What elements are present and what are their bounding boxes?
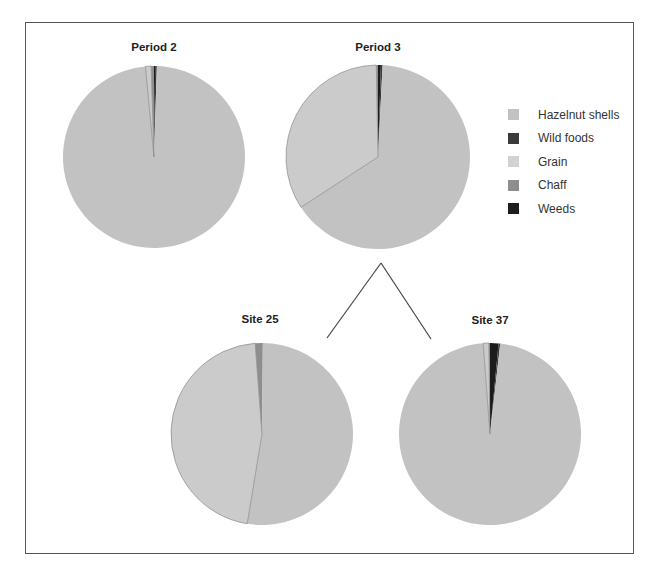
swatch-icon	[508, 133, 519, 144]
pie-site-25	[171, 343, 353, 525]
pie-title-period-3: Period 3	[355, 41, 400, 53]
legend-label: Hazelnut shells	[538, 108, 619, 122]
pie-period-2	[63, 66, 245, 248]
connector-line	[381, 263, 431, 339]
legend-item-wild-foods: Wild foods	[508, 127, 619, 151]
legend-item-grain: Grain	[508, 150, 619, 174]
legend-item-weeds: Weeds	[508, 197, 619, 221]
legend-label: Wild foods	[538, 131, 594, 145]
connector-line	[327, 263, 381, 338]
pie-title-site-37: Site 37	[471, 314, 508, 326]
swatch-icon	[508, 109, 519, 120]
pie-title-site-25: Site 25	[241, 313, 278, 325]
swatch-icon	[508, 156, 519, 167]
pie-period-3	[286, 65, 470, 249]
slice-grain	[171, 343, 262, 524]
slice-hazelnut-shells	[247, 343, 353, 525]
pie-site-37	[399, 343, 581, 525]
legend-label: Chaff	[538, 178, 566, 192]
swatch-icon	[508, 203, 519, 214]
legend-item-chaff: Chaff	[508, 174, 619, 198]
legend-item-hazelnut: Hazelnut shells	[508, 103, 619, 127]
pie-title-period-2: Period 2	[131, 41, 176, 53]
legend-label: Weeds	[538, 202, 575, 216]
pie-charts	[0, 0, 657, 571]
swatch-icon	[508, 180, 519, 191]
legend: Hazelnut shells Wild foods Grain Chaff W…	[508, 103, 619, 221]
legend-label: Grain	[538, 155, 567, 169]
